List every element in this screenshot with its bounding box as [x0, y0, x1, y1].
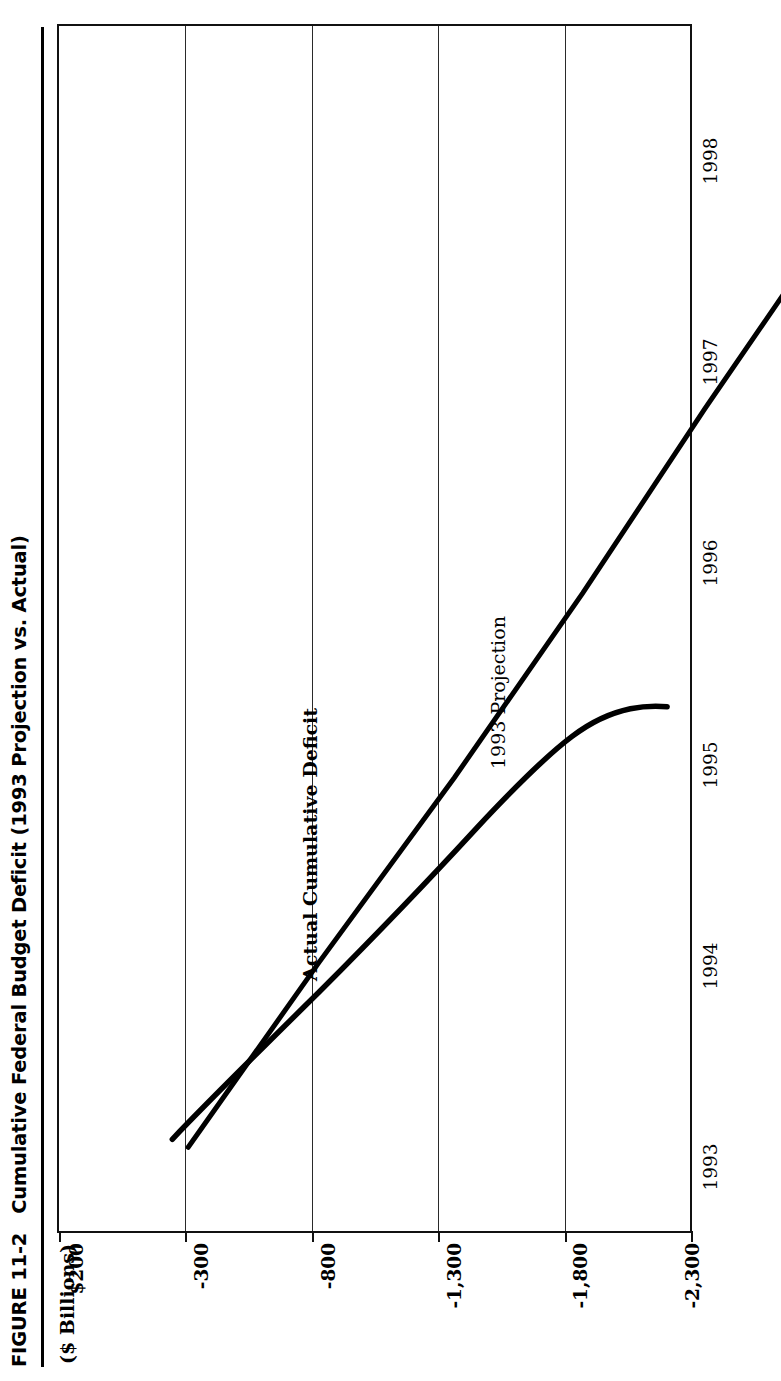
value-tick-mark-0	[59, 1231, 61, 1242]
value-tick-mark-4	[565, 1231, 567, 1242]
figure-number: FIGURE 11-2	[8, 1233, 31, 1367]
series-label-projection: 1993 Projection	[487, 616, 509, 769]
year-tick-label-1995: 1995	[700, 715, 721, 815]
heading-rule	[41, 27, 44, 1367]
value-tick-label-4: -1,800	[570, 1243, 591, 1309]
figure-title: Cumulative Federal Budget Deficit (1993 …	[8, 535, 31, 1214]
series-line-projection	[188, 226, 781, 1147]
plot-area	[57, 24, 692, 1233]
year-tick-label-1997: 1997	[700, 312, 721, 412]
value-tick-label-3: -1,300	[444, 1243, 465, 1309]
series-label-actual: Actual Cumulative Deficit	[299, 708, 321, 981]
value-tick-mark-1	[185, 1231, 187, 1242]
value-tick-mark-2	[312, 1231, 314, 1242]
value-tick-mark-3	[438, 1231, 440, 1242]
year-tick-label-1993: 1993	[700, 1117, 721, 1217]
value-tick-mark-5	[691, 1231, 693, 1242]
series-lines	[59, 26, 690, 1231]
rotated-page-wrapper: FIGURE 11-2Cumulative Federal Budget Def…	[0, 0, 781, 1381]
value-tick-label-5: -2,300	[682, 1243, 703, 1309]
figure-heading: FIGURE 11-2Cumulative Federal Budget Def…	[8, 27, 42, 1367]
figure-page: FIGURE 11-2Cumulative Federal Budget Def…	[0, 0, 781, 1381]
year-tick-label-1996: 1996	[700, 513, 721, 613]
year-tick-label-1998: 1998	[700, 111, 721, 211]
series-line-actual	[172, 706, 667, 1139]
value-tick-label-0: $200	[66, 1243, 87, 1295]
value-tick-label-1: -300	[191, 1243, 212, 1289]
year-tick-label-1994: 1994	[700, 916, 721, 1016]
value-tick-label-2: -800	[318, 1243, 339, 1289]
